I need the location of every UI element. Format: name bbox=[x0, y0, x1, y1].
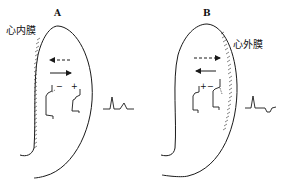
heart-outline-a bbox=[20, 26, 92, 178]
action-potential-right-b-dashed bbox=[220, 88, 222, 94]
heart-outline-b bbox=[161, 24, 237, 177]
sign-left-b: + bbox=[200, 83, 207, 91]
action-potential-left-b bbox=[193, 86, 199, 113]
ecg-trace-b bbox=[245, 96, 276, 112]
panel-a bbox=[20, 26, 134, 178]
endocardium-label: 心内膜 bbox=[6, 26, 36, 36]
sign-right-b: − bbox=[207, 83, 214, 91]
action-potential-left-a bbox=[46, 85, 53, 119]
action-potential-right-b bbox=[213, 79, 220, 110]
panel-label-a: A bbox=[54, 9, 61, 18]
action-potential-right-a bbox=[72, 89, 80, 113]
sign-left-a: − bbox=[56, 83, 63, 91]
epicardium-label: 心外膜 bbox=[233, 40, 263, 50]
panel-label-b: B bbox=[203, 9, 211, 18]
sign-right-a: + bbox=[71, 83, 78, 91]
ecg-trace-a bbox=[103, 97, 134, 109]
diagram-canvas bbox=[0, 0, 282, 188]
